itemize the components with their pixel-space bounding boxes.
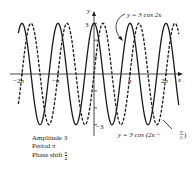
- dashed-eq-close-paren: ): [184, 131, 187, 139]
- x-tick-label-2pi: 2π: [161, 77, 169, 85]
- solid-annotation-arrow: [116, 14, 125, 39]
- y-axis-arrow-icon: [92, 11, 96, 16]
- x-axis-label: x: [177, 76, 182, 84]
- phase-shift-text: Phase shift: [32, 151, 63, 159]
- amplitude-text: Amplitude 3: [32, 134, 67, 142]
- dashed-eq-num: π: [180, 129, 183, 134]
- y-tick-label-top: 3: [85, 21, 89, 29]
- x-tick-label-pi: π: [128, 77, 132, 85]
- y-tick-label-bottom: −3: [96, 123, 104, 131]
- trig-graph: y x 3 −3 −2π −π π 2π y = 3 cos 2x y = 3 …: [0, 0, 192, 171]
- x-tick-label-neg-pi: −π: [52, 77, 60, 85]
- period-text: Period π: [32, 142, 67, 150]
- phase-shift-fraction: π4: [65, 150, 68, 161]
- dashed-eq-den: 2: [180, 135, 183, 140]
- solid-equation-label: y = 3 cos 2x: [126, 11, 162, 19]
- phase-shift-row: Phase shiftπ4: [32, 150, 67, 161]
- dashed-equation-label: y = 3 cos (2x −: [117, 131, 161, 139]
- properties-note: Amplitude 3 Period π Phase shiftπ4: [32, 134, 67, 161]
- y-axis-label: y: [86, 7, 91, 15]
- dashed-annotation-pointer: [163, 120, 172, 129]
- x-tick-label-neg-2pi: −2π: [13, 77, 24, 85]
